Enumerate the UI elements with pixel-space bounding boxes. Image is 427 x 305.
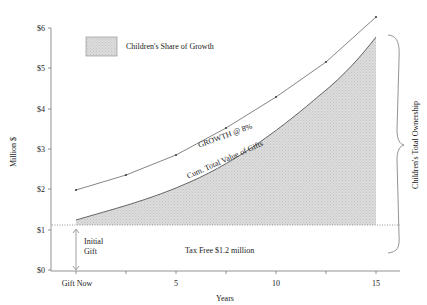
x-tick-labels: Gift Now 5 10 15 [62, 279, 380, 288]
x-tick-10: 10 [272, 279, 280, 288]
y-tick-labels: $6 $5 $4 $3 $2 $1 $0 [37, 24, 45, 275]
x-axis-title: Years [216, 294, 234, 303]
ownership-label: Children's Total Ownership [411, 101, 420, 189]
initial-gift-label-line1: Initial [84, 237, 104, 246]
y-tick-1: $1 [37, 226, 45, 235]
ownership-bracket [388, 35, 404, 253]
x-tick-5: 5 [174, 279, 178, 288]
y-tick-0: $0 [37, 266, 45, 275]
y-tick-4: $4 [37, 105, 45, 114]
legend-label: Children's Share of Growth [126, 42, 214, 51]
y-ticks [48, 28, 51, 270]
y-axis-title: Million $ [9, 137, 18, 167]
tax-free-label: Tax Free $1.2 million [185, 246, 254, 255]
x-tick-15: 15 [372, 279, 380, 288]
y-tick-2: $2 [37, 185, 45, 194]
y-tick-3: $3 [37, 145, 45, 154]
y-tick-6: $6 [37, 24, 45, 33]
initial-gift-label-line2: Gift [84, 247, 98, 256]
chart-canvas: $6 $5 $4 $3 $2 $1 $0 Gift Now 5 10 15 Ye… [0, 0, 427, 305]
initial-gift-arrow [73, 229, 79, 270]
legend-swatch [86, 37, 117, 56]
y-tick-5: $5 [37, 64, 45, 73]
x-ticks [76, 271, 376, 274]
x-tick-gift-now: Gift Now [62, 279, 93, 288]
